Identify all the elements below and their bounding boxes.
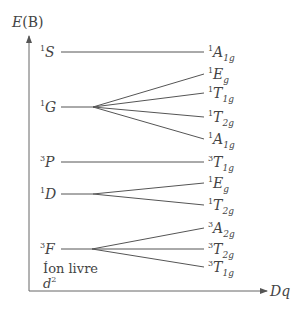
split-line: [93, 183, 204, 194]
free-ion-text: Íon livre: [43, 261, 98, 276]
crystal-field-state-label: 1Eg: [208, 175, 229, 194]
crystal-field-state-label: 3T2g: [208, 241, 234, 260]
free-ion-term-label: 3P: [40, 154, 55, 170]
y-axis-label: E(B): [11, 14, 43, 30]
split-line: [93, 93, 204, 107]
crystal-field-state-label: 3A2g: [208, 220, 235, 239]
crystal-field-state-label: 1T2g: [208, 109, 234, 128]
crystal-field-state-label: 3T1g: [208, 154, 234, 173]
split-line: [92, 228, 204, 249]
term-1D: 1D1Eg1T2g: [40, 175, 234, 216]
term-1S: 1S1A1g: [40, 44, 235, 63]
term-1G: 1G1Eg1T1g1T2g1A1g: [40, 66, 235, 150]
free-ion-term-label: 1G: [40, 99, 56, 115]
free-ion-config: d2: [43, 275, 56, 291]
free-ion-term-label: 1D: [40, 186, 56, 202]
term-levels: 1S1A1g1G1Eg1T1g1T2g1A1g3P3T1g1D1Eg1T2g3F…: [40, 44, 235, 278]
crystal-field-state-label: 3T1g: [208, 259, 234, 278]
free-ion-label: Íon livre d2: [43, 261, 98, 291]
crystal-field-state-label: 1Eg: [208, 66, 229, 85]
free-ion-term-label: 3F: [40, 241, 56, 257]
tanabe-sugano-correlation-diagram: E(B) Dq Íon livre d2 1S1A1g1G1Eg1T1g1T2g…: [0, 0, 301, 320]
crystal-field-state-label: 1T2g: [208, 197, 234, 216]
free-ion-term-label: 1S: [40, 44, 55, 60]
crystal-field-state-label: 1T1g: [208, 85, 234, 104]
term-3P: 3P3T1g: [40, 154, 234, 173]
split-line: [93, 194, 204, 205]
crystal-field-state-label: 1A1g: [208, 131, 235, 150]
crystal-field-state-label: 1A1g: [208, 44, 235, 63]
split-line: [93, 74, 204, 107]
x-axis-label: Dq: [269, 283, 290, 299]
split-line: [92, 249, 204, 267]
